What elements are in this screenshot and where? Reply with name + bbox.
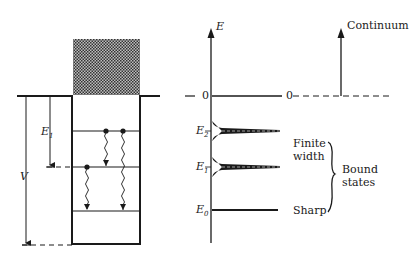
electron bbox=[84, 164, 89, 169]
e1-label: E1 bbox=[40, 125, 54, 140]
bound-states-brace bbox=[328, 142, 335, 212]
transition-e1-e0 bbox=[86, 169, 89, 209]
energy-axis-label: E bbox=[215, 20, 224, 33]
potential-well: E1 V bbox=[17, 39, 160, 245]
energy-axis-arrowhead bbox=[208, 28, 215, 38]
bound-states-label-line1: Bound bbox=[342, 163, 378, 176]
e0-label: E0 bbox=[195, 203, 209, 218]
energy-level-diagram: E1 V E 0 0 Continuum bbox=[0, 0, 414, 257]
continuum-arrowhead bbox=[338, 28, 345, 38]
continuum-hatched-region bbox=[73, 39, 140, 95]
zero-label-axis: 0 bbox=[202, 89, 209, 102]
continuum-label: Continuum bbox=[347, 19, 409, 32]
electron bbox=[103, 128, 108, 133]
e1-broadened-level bbox=[205, 157, 283, 177]
zero-label-continuum: 0 bbox=[286, 89, 293, 102]
e2-label: E2 bbox=[195, 124, 209, 139]
bound-states-label-line2: states bbox=[342, 176, 376, 189]
energy-spectrum: E 0 0 Continuum E2 E1 E0 Finit bbox=[185, 19, 409, 243]
v-label: V bbox=[20, 170, 29, 183]
electron bbox=[120, 128, 125, 133]
sharp-label: Sharp bbox=[293, 204, 326, 217]
e2-broadened-level bbox=[205, 121, 283, 141]
finite-width-label-line2: width bbox=[293, 150, 324, 163]
transition-e2-e0 bbox=[122, 133, 125, 210]
finite-width-label-line1: Finite bbox=[293, 137, 326, 150]
e1-level-label: E1 bbox=[195, 160, 209, 175]
